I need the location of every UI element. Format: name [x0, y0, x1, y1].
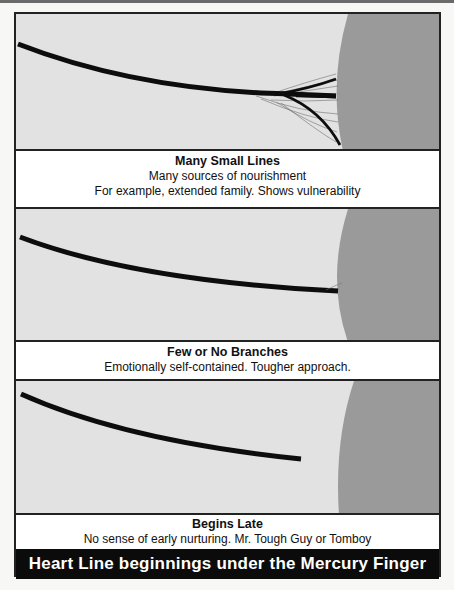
caption-text: Emotionally self-contained. Tougher appr… [16, 360, 439, 375]
palm-edge-mount-shape [337, 209, 439, 342]
palm-edge-mount-shape [338, 381, 439, 515]
caption-heading: Many Small Lines [16, 154, 439, 169]
caption-text: No sense of early nurturing. Mr. Tough G… [16, 532, 439, 547]
panel-begins-late-illustration [16, 381, 439, 515]
caption-text: Many sources of nourishment [16, 169, 439, 184]
heart-line-branches-illustration [16, 14, 439, 151]
panel-many-small-lines-illustration [16, 14, 439, 151]
caption-heading: Few or No Branches [16, 345, 439, 360]
figure-frame: Many Small Lines Many sources of nourish… [14, 12, 441, 577]
heart-line-no-branches-illustration [16, 209, 439, 342]
caption-few-or-no-branches: Few or No Branches Emotionally self-cont… [16, 342, 439, 381]
caption-text: For example, extended family. Shows vuln… [16, 184, 439, 199]
caption-begins-late: Begins Late No sense of early nurturing.… [16, 515, 439, 550]
heart-line-begins-late-illustration [16, 381, 439, 515]
caption-heading: Begins Late [16, 517, 439, 532]
page-top-edge [0, 0, 454, 3]
figure-title-bar: Heart Line beginnings under the Mercury … [16, 549, 439, 579]
caption-many-small-lines: Many Small Lines Many sources of nourish… [16, 151, 439, 209]
palm-edge-mount-shape [337, 14, 439, 151]
panel-few-or-no-branches-illustration [16, 209, 439, 342]
